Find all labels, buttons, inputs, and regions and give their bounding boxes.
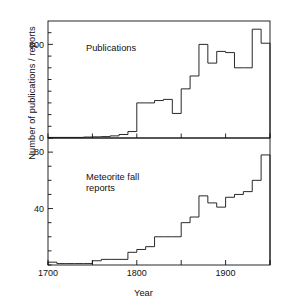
x-axis-title: Year	[0, 288, 287, 298]
x-axis-tick-labels: 170018001900	[38, 268, 236, 278]
bottom-panel-label-line1: Meteorite fall	[86, 172, 139, 182]
svg-text:1800: 1800	[127, 268, 147, 278]
meteorite-publications-figure: Number of publications / reports Publica…	[0, 0, 287, 307]
top-panel-y-ticks	[48, 33, 53, 138]
svg-text:1700: 1700	[38, 268, 58, 278]
bottom-panel-label-line2: reports	[86, 183, 115, 193]
bottom-panel-y-ticks	[48, 152, 53, 265]
bottom-panel-step-series	[48, 155, 270, 265]
y-axis-title: Number of publications / reports	[27, 13, 37, 173]
svg-text:40: 40	[34, 204, 44, 214]
x-axis-ticks	[48, 134, 270, 266]
bottom-panel-frame	[48, 138, 270, 265]
bottom-panel-label: Meteorite fall reports	[86, 172, 139, 193]
top-panel-step-series	[48, 29, 270, 138]
top-panel-frame	[48, 21, 270, 138]
svg-text:1900: 1900	[216, 268, 236, 278]
plot-canvas: 0800 4080 170018001900	[0, 0, 287, 307]
svg-text:0: 0	[39, 133, 44, 143]
top-panel-label: Publications	[86, 43, 136, 54]
